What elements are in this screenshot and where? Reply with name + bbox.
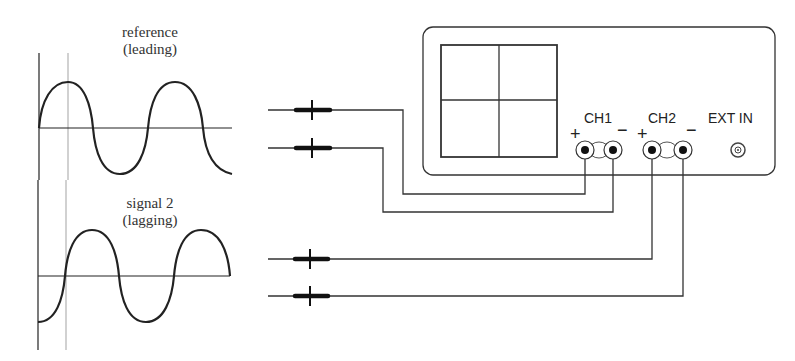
ch2-minus-sign: −: [686, 121, 697, 139]
ch1-label: CH1: [584, 110, 612, 126]
ch1-terminals[interactable]: [576, 141, 622, 159]
cable-reference-plus: [268, 110, 585, 194]
probe-clip-4: [295, 286, 328, 306]
cable-signal2-minus: [268, 159, 683, 296]
reference-label: reference (leading): [100, 24, 200, 58]
probe-clip-1: [296, 100, 330, 120]
signal2-label: signal 2 (lagging): [100, 195, 200, 229]
signal2-label-line1: signal 2: [100, 195, 200, 212]
ch2-label: CH2: [648, 110, 676, 126]
reference-label-line1: reference: [100, 24, 200, 41]
signal2-label-line2: (lagging): [100, 212, 200, 229]
cable-signal2-plus: [268, 159, 652, 259]
ch1-minus-sign: −: [617, 121, 628, 139]
ext-in-label: EXT IN: [708, 110, 753, 126]
ext-in-connector[interactable]: [731, 143, 745, 157]
reference-label-line2: (leading): [100, 41, 200, 58]
ch2-terminals[interactable]: [643, 141, 692, 159]
probe-clips[interactable]: [295, 100, 330, 306]
ch2-plus-sign: +: [637, 125, 648, 143]
reference-waveform: [39, 53, 232, 180]
probe-clip-3: [295, 249, 328, 269]
oscilloscope-case: [423, 27, 775, 175]
ch1-plus-sign: +: [570, 125, 581, 143]
probe-clip-2: [296, 138, 330, 158]
oscilloscope: [423, 27, 775, 175]
